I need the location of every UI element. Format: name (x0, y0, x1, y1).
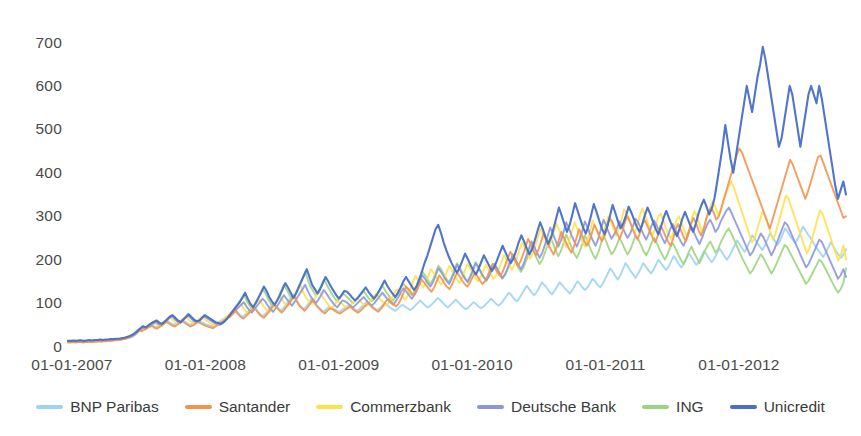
x-axis-tick-label: 01-01-2010 (432, 356, 513, 375)
x-axis-tick-label: 01-01-2011 (566, 356, 646, 375)
legend-swatch-icon (36, 405, 63, 409)
legend-label: BNP Paribas (70, 399, 158, 415)
legend-swatch-icon (730, 405, 757, 409)
y-axis-tick-label: 0 (6, 339, 62, 355)
legend-label: Commerzbank (350, 399, 451, 415)
series-line-unicredit (68, 47, 846, 341)
x-axis-tick-label: 01-01-2009 (298, 356, 379, 375)
legend-item-commerzbank[interactable]: Commerzbank (316, 399, 451, 415)
legend-item-bnp-paribas[interactable]: BNP Paribas (36, 399, 158, 415)
y-axis-tick-label: 400 (6, 165, 62, 181)
y-axis-tick-label: 700 (6, 35, 62, 51)
legend-swatch-icon (642, 405, 669, 409)
legend-item-ing[interactable]: ING (642, 399, 704, 415)
legend-item-santander[interactable]: Santander (185, 399, 291, 415)
plot-area (0, 0, 861, 356)
legend-swatch-icon (477, 405, 504, 409)
y-axis-tick-label: 500 (6, 122, 62, 138)
line-chart: 0100200300400500600700 01-01-200701-01-2… (0, 0, 861, 436)
y-axis-tick-label: 600 (6, 78, 62, 94)
x-axis: 01-01-200701-01-200801-01-200901-01-2010… (0, 356, 861, 380)
y-axis-tick-label: 200 (6, 252, 62, 268)
x-axis-tick-label: 01-01-2008 (165, 356, 246, 375)
legend-label: Santander (219, 399, 291, 415)
legend-label: Unicredit (764, 399, 825, 415)
series-group (68, 47, 846, 343)
y-axis-tick-label: 300 (6, 208, 62, 224)
x-axis-tick-label: 01-01-2007 (31, 356, 112, 375)
chart-legend: BNP ParibasSantanderCommerzbankDeutsche … (0, 392, 861, 422)
legend-swatch-icon (316, 405, 343, 409)
y-axis-tick-label: 100 (6, 295, 62, 311)
legend-swatch-icon (185, 405, 212, 409)
x-axis-tick-label: 01-01-2012 (698, 356, 779, 375)
legend-item-deutsche-bank[interactable]: Deutsche Bank (477, 399, 616, 415)
legend-item-unicredit[interactable]: Unicredit (730, 399, 825, 415)
series-line-bnp-paribas (68, 227, 846, 343)
plot-svg (0, 0, 861, 356)
legend-label: ING (676, 399, 704, 415)
series-line-santander (68, 148, 846, 342)
legend-label: Deutsche Bank (511, 399, 616, 415)
y-axis: 0100200300400500600700 (0, 0, 62, 356)
series-line-ing (68, 228, 846, 342)
